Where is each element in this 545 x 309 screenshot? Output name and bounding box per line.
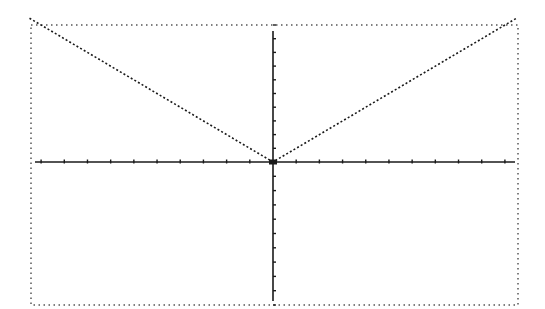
screen-border [31, 25, 518, 305]
graph-screen [0, 0, 545, 309]
axes [35, 25, 515, 305]
